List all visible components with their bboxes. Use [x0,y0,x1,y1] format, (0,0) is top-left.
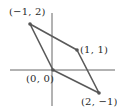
vertex-point-a [28,22,32,26]
vertex-label-a: (−1, 2) [9,7,46,17]
vertex-label-c: (2, −1) [81,97,117,107]
vertex-point-o [51,68,55,72]
vertex-label-b: (1, 1) [80,45,108,55]
vertex-label-origin: (0, 0) [26,74,54,84]
vertex-point-c [97,91,101,95]
vertex-point-b [75,48,79,52]
